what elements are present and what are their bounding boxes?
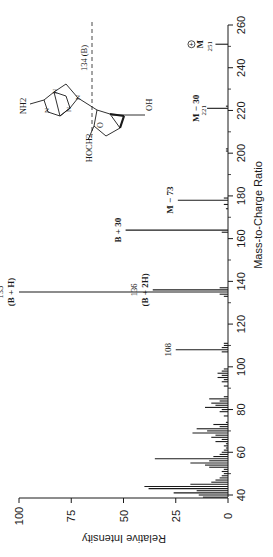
oh-label: OH [144,99,154,111]
peak-annotations: 135(B + H)136(B + 2H)108B + 30M − 73M − … [0,39,214,356]
peak-annotation: M − 73 [165,186,175,214]
x-tick-label: 140 [235,272,247,290]
x-tick-label: 40 [235,489,247,501]
x-tick-label: 80 [235,403,247,415]
peak-annotation: B + 30 [113,217,123,242]
svg-text:(B + 2H): (B + 2H) [140,273,150,306]
n-label: N [43,108,51,113]
x-tick-label: 200 [235,144,247,162]
hoch2-label: HOCH2 [84,134,94,162]
x-tick-label: 260 [235,16,247,34]
n-label: N [51,89,59,94]
svg-text:135: 135 [0,286,5,299]
x-tick-label: 220 [235,101,247,119]
svg-text:M − 73: M − 73 [165,186,175,214]
axes: 4060801001201401601802002202402600255075… [13,16,247,525]
x-tick-label: 60 [235,446,247,458]
x-tick-label: 100 [235,358,247,376]
x-tick-label: 240 [235,59,247,77]
peak-annotation: M+251 [188,39,215,51]
ring-oxygen-label: O [96,122,105,128]
y-axis-label: Relative Intensity [82,533,166,545]
nucleoside-structure [30,22,145,140]
svg-text:221: 221 [200,105,208,116]
svg-text:136: 136 [129,284,139,297]
y-tick-label: 100 [13,507,25,525]
y-tick-label: 0 [222,513,234,519]
svg-text:B + 30: B + 30 [113,217,123,242]
cleavage-label: 134 (B) [79,45,89,71]
x-tick-label: 160 [235,229,247,247]
svg-text:108: 108 [163,342,173,356]
peak-annotation: 108 [163,342,173,356]
svg-text:M: M [195,39,205,48]
y-tick-label: 25 [170,510,182,522]
x-axis-label: Mass-to-Charge Ratio [252,161,264,269]
x-tick-label: 180 [235,187,247,205]
n-label: N [65,107,73,112]
peak-annotation: 136(B + 2H) [129,273,150,306]
x-tick-label: 120 [235,315,247,333]
svg-text:251: 251 [206,40,214,51]
peak-annotation: 135(B + H) [0,278,16,307]
svg-text:(B + H): (B + H) [6,278,16,307]
y-tick-label: 50 [118,510,130,522]
svg-text:+: + [188,42,195,46]
nh2-label: NH2 [18,98,28,115]
mass-spectrum-chart: 4060801001201401601802002202402600255075… [0,0,273,557]
n-label: N [74,95,82,100]
peak-annotation: M − 30221 [191,94,208,122]
y-tick-label: 75 [65,510,77,522]
